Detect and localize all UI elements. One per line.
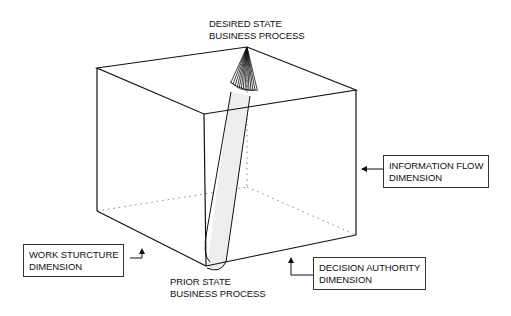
- transformation-cylinder: [205, 47, 258, 270]
- prior-state-label: PRIOR STATE BUSINESS PROCESS: [170, 276, 266, 300]
- information-flow-line1: INFORMATION FLOW: [389, 160, 483, 172]
- work-structure-line2: DIMENSION: [29, 261, 118, 273]
- work-structure-line1: WORK STURCTURE: [29, 249, 118, 261]
- arrow-left-icon: [361, 166, 367, 172]
- decision-authority-dimension-box: DECISION AUTHORITY DIMENSION: [313, 257, 426, 290]
- information-flow-line2: DIMENSION: [389, 172, 483, 184]
- information-flow-dimension-box: INFORMATION FLOW DIMENSION: [383, 155, 489, 188]
- desired-state-label: DESIRED STATE BUSINESS PROCESS: [209, 18, 305, 42]
- prior-state-line1: PRIOR STATE: [170, 276, 266, 288]
- decision-authority-line2: DIMENSION: [319, 274, 420, 286]
- desired-state-line1: DESIRED STATE: [209, 18, 305, 30]
- desired-state-line2: BUSINESS PROCESS: [209, 30, 305, 42]
- cone-rays-icon: [231, 47, 257, 91]
- work-structure-dimension-box: WORK STURCTURE DIMENSION: [23, 244, 124, 277]
- decision-authority-line1: DECISION AUTHORITY: [319, 262, 420, 274]
- arrowheads: [139, 166, 367, 263]
- arrow-up-icon: [288, 257, 294, 263]
- arrow-up-icon: [139, 248, 145, 254]
- decision-authority-leader: [291, 260, 313, 275]
- prior-state-line2: BUSINESS PROCESS: [170, 288, 266, 300]
